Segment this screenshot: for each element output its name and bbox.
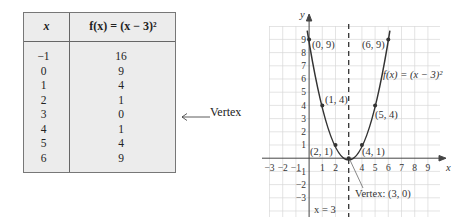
header-divider bbox=[24, 41, 175, 42]
svg-text:5: 5 bbox=[301, 87, 306, 97]
function-label: f(x) = (x − 3)² bbox=[383, 69, 443, 81]
value-table: x f(x) = (x − 3)² −1 0 1 2 3 4 5 6 16 9 … bbox=[23, 12, 176, 173]
svg-text:1: 1 bbox=[320, 163, 325, 173]
svg-text:6: 6 bbox=[301, 74, 306, 84]
svg-text:9: 9 bbox=[301, 35, 306, 45]
x-cell: −1 bbox=[24, 49, 63, 64]
fx-cell: 9 bbox=[70, 151, 172, 166]
fx-cell: 4 bbox=[70, 136, 172, 151]
svg-text:−3: −3 bbox=[264, 163, 274, 173]
arrow-left-icon bbox=[181, 112, 210, 122]
svg-text:8: 8 bbox=[412, 163, 417, 173]
point-label: (6, 9) bbox=[362, 39, 385, 51]
point-label: (5, 4) bbox=[375, 109, 398, 121]
svg-text:7: 7 bbox=[301, 61, 306, 71]
svg-text:−3: −3 bbox=[296, 193, 306, 203]
point-label: (2, 1) bbox=[310, 146, 333, 158]
svg-text:6: 6 bbox=[386, 163, 391, 173]
svg-text:5: 5 bbox=[373, 163, 378, 173]
x-cell: 5 bbox=[24, 136, 63, 151]
svg-text:4: 4 bbox=[301, 101, 306, 111]
x-cell: 4 bbox=[24, 122, 63, 137]
svg-text:9: 9 bbox=[426, 163, 431, 173]
fx-column: 16 9 4 1 0 1 4 9 bbox=[70, 49, 176, 165]
x-column: −1 0 1 2 3 4 5 6 bbox=[24, 49, 69, 165]
x-cell: 6 bbox=[24, 151, 63, 166]
fx-cell: 1 bbox=[70, 122, 172, 137]
x-cell: 2 bbox=[24, 93, 63, 108]
x-cell: 1 bbox=[24, 78, 63, 93]
svg-text:8: 8 bbox=[301, 48, 306, 58]
svg-text:−2: −2 bbox=[278, 163, 288, 173]
svg-text:7: 7 bbox=[399, 163, 404, 173]
header-x: x bbox=[24, 19, 69, 34]
symmetry-label: x = 3 bbox=[314, 204, 336, 215]
point-label: (0, 9) bbox=[312, 39, 335, 51]
x-cell: 3 bbox=[24, 107, 63, 122]
fx-cell: 9 bbox=[70, 64, 172, 79]
parabola-graph: −3−2−1 12 456 789 987 654 321 −1−2−3 y x… bbox=[260, 0, 474, 224]
point-label: (1, 4) bbox=[325, 94, 348, 106]
point-label: (4, 1) bbox=[362, 146, 385, 158]
svg-text:4: 4 bbox=[360, 163, 365, 173]
y-axis-label: y bbox=[299, 9, 305, 20]
svg-text:−2: −2 bbox=[296, 180, 306, 190]
header-fx: f(x) = (x − 3)² bbox=[70, 19, 176, 34]
fx-cell: 1 bbox=[70, 93, 172, 108]
svg-text:1: 1 bbox=[301, 140, 306, 150]
parabola-curve bbox=[307, 31, 390, 160]
fx-cell: 4 bbox=[70, 78, 172, 93]
svg-text:3: 3 bbox=[301, 114, 306, 124]
fx-cell: 0 bbox=[70, 107, 172, 122]
x-cell: 0 bbox=[24, 64, 63, 79]
x-axis-label: x bbox=[445, 162, 451, 173]
svg-text:2: 2 bbox=[333, 163, 338, 173]
vertex-label: Vertex: (3, 0) bbox=[355, 188, 411, 200]
vertex-callout-label: Vertex bbox=[210, 105, 241, 120]
svg-text:2: 2 bbox=[301, 127, 306, 137]
fx-cell: 16 bbox=[70, 49, 172, 64]
svg-text:−1: −1 bbox=[296, 167, 306, 177]
axes bbox=[262, 14, 446, 217]
